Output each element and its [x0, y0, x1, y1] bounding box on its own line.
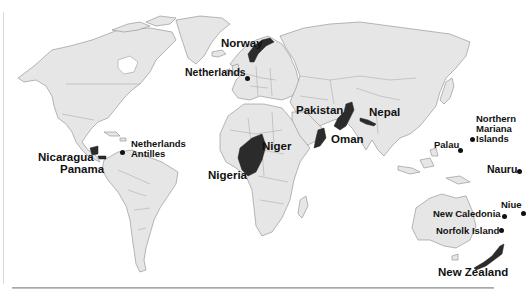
panama-shape — [98, 156, 106, 159]
label-new-zealand: New Zealand — [438, 266, 508, 278]
label-norfolk-island: Norfolk Island — [436, 226, 499, 236]
marker-niue — [521, 211, 526, 216]
label-netherlands-antilles-line2: Antilles — [131, 148, 165, 159]
marker-new-caledonia — [502, 214, 507, 219]
marker-palau — [458, 148, 463, 153]
marker-norfolk-island — [499, 228, 504, 233]
frame-bottom-edge — [12, 287, 494, 289]
label-niger: Niger — [262, 140, 291, 152]
label-netherlands: Netherlands — [185, 67, 246, 78]
label-panama: Panama — [60, 163, 104, 175]
frame-left-edge — [3, 12, 4, 284]
label-pakistan: Pakistan — [296, 104, 343, 116]
label-northern-mariana-islands: Northern Mariana Islands — [476, 114, 516, 144]
label-niue: Niue — [501, 200, 522, 210]
label-nepal: Nepal — [369, 106, 400, 118]
australia — [412, 194, 476, 248]
label-nigeria: Nigeria — [208, 169, 247, 181]
label-nmi-line3: Islands — [476, 133, 509, 144]
label-norway: Norway — [221, 37, 263, 49]
marker-netherlands-antilles — [120, 150, 125, 155]
label-new-caledonia: New Caledonia — [433, 209, 501, 219]
marker-northern-mariana-islands — [470, 137, 475, 142]
label-nicaragua: Nicaragua — [38, 151, 94, 163]
label-netherlands-antilles: Netherlands Antilles — [131, 139, 186, 159]
label-oman: Oman — [331, 133, 364, 145]
marker-netherlands — [245, 76, 250, 81]
label-palau: Palau — [434, 140, 459, 150]
marker-nauru — [517, 169, 522, 174]
label-nauru: Nauru — [487, 164, 517, 175]
south-america — [102, 150, 178, 272]
